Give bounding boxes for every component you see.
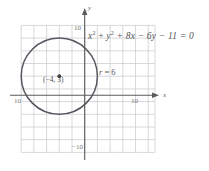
y-axis-bottom-tick-label: −10 xyxy=(72,144,83,151)
y-axis xyxy=(82,8,87,160)
y-axis-top-tick-label: 10 xyxy=(74,25,81,32)
radius-value: = 6 xyxy=(102,67,115,77)
center-coordinates-annotation: (−4, 3) xyxy=(43,76,63,84)
y-axis-name-label: y xyxy=(88,5,91,12)
radius-annotation: r = 6 xyxy=(99,68,116,77)
equation-remainder: + 8x − 6y − 11 = 0 xyxy=(114,31,194,41)
x-axis-left-tick-label: 10 xyxy=(14,98,21,105)
x-axis-name-label: x xyxy=(163,92,166,99)
x-axis-right-tick-label: 10 xyxy=(131,98,138,105)
circle-graph-figure: 10 −10 10 10 x y x2 + y2 + 8x − 6y − 11 … xyxy=(0,0,209,171)
grid-lines xyxy=(21,25,155,152)
coordinate-plane xyxy=(0,0,209,171)
equation-plus-1: + xyxy=(96,31,107,41)
circle-equation-annotation: x2 + y2 + 8x − 6y − 11 = 0 xyxy=(88,30,194,42)
